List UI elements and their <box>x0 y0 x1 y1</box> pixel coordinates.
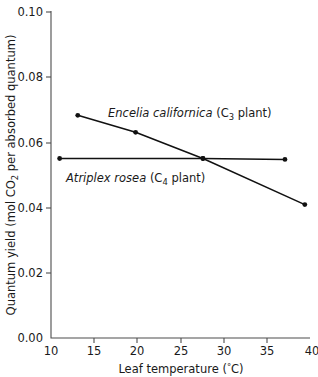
x-tick-label: 20 <box>130 344 145 358</box>
x-tick-label: 15 <box>87 344 102 358</box>
data-point <box>302 202 307 207</box>
x-axis-title-before: Leaf temperature ( <box>118 362 226 376</box>
x-tick-label: 35 <box>260 344 275 358</box>
atriplex-species-name: Atriplex rosea <box>65 171 146 185</box>
y-tick-label: 0.06 <box>17 136 43 150</box>
y-tick-label: 0.02 <box>17 266 43 280</box>
x-tick-label: 25 <box>174 344 189 358</box>
series-label-encelia: Encelia californica (C3 plant) <box>108 106 272 122</box>
encelia-pathway-suffix: plant) <box>234 106 271 120</box>
data-point <box>133 130 138 135</box>
atriplex-pathway-suffix: plant) <box>168 171 205 185</box>
encelia-species-name: Encelia californica <box>108 106 212 120</box>
chart-figure: Quantum yield (mol CO2 per absorbed quan… <box>0 0 318 377</box>
data-point <box>75 113 80 118</box>
atriplex-pathway-open: (C <box>150 171 163 185</box>
y-tick-label: 0.04 <box>17 201 43 215</box>
data-point <box>283 157 288 162</box>
y-tick-label: 0.00 <box>17 331 43 345</box>
y-axis-title-after: per absorbed quantum) <box>4 35 18 175</box>
y-tick-label: 0.10 <box>17 5 43 19</box>
x-tick-label: 10 <box>44 344 59 358</box>
x-tick-label: 40 <box>305 344 318 358</box>
x-tick-label: 30 <box>217 344 232 358</box>
quantum-yield-line-chart: Quantum yield (mol CO2 per absorbed quan… <box>0 0 318 377</box>
series-line <box>60 158 285 159</box>
data-point <box>57 156 62 161</box>
series-atriplex <box>57 156 287 162</box>
y-tick-label: 0.08 <box>17 70 43 84</box>
data-point <box>201 156 206 161</box>
x-axis-title-after: C) <box>231 362 244 376</box>
x-axis-title: Leaf temperature (°C) <box>118 362 243 376</box>
y-axis-title-before: Quantum yield (mol CO <box>4 180 18 315</box>
y-axis-ticks: 0.10 0.08 0.06 0.04 0.02 0.00 <box>17 5 51 345</box>
encelia-pathway-open: (C <box>216 106 229 120</box>
x-axis-ticks: 10 15 20 25 30 35 40 <box>44 338 318 358</box>
series-label-atriplex: Atriplex rosea (C4 plant) <box>65 171 205 187</box>
series-layer <box>57 113 307 207</box>
